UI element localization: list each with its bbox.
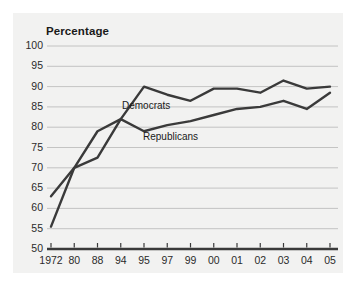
series-line-republicans [51, 93, 330, 227]
chart-figure: Percentage 10095908580757065605550 19728… [0, 0, 356, 286]
x-axis [47, 243, 338, 249]
series-label-democrats: Democrats [122, 100, 170, 111]
series-lines [51, 81, 330, 227]
line-chart-plot [0, 0, 356, 286]
series-label-republicans: Republicans [143, 131, 198, 142]
